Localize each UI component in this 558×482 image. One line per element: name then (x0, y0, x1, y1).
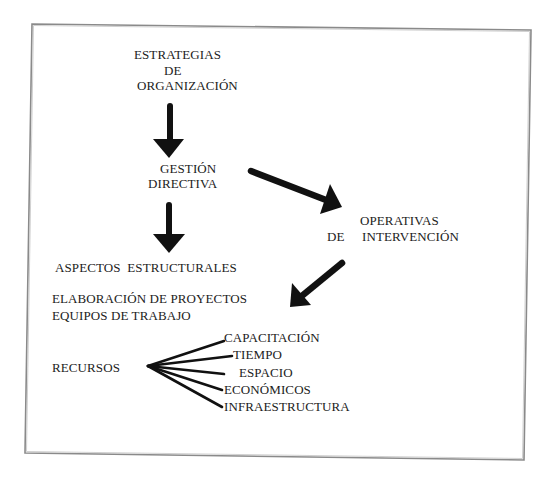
recursos-item-espacio: ESPACIO (239, 366, 293, 380)
node-gestion-line1: GESTIÓN (160, 162, 216, 176)
recursos-fan-lines (148, 341, 232, 407)
arrow-down-right-icon (251, 171, 342, 214)
node-estrategias-line1: ESTRATEGIAS (134, 48, 221, 62)
node-recursos: RECURSOS (52, 361, 120, 375)
arrow-down-icon (153, 106, 184, 158)
node-operativas-line2b: INTERVENCIÓN (362, 230, 459, 244)
node-estrategias-line2: DE (164, 64, 182, 78)
node-elaboracion-de-proyectos: ELABORACIÓN DE PROYECTOS (52, 292, 247, 306)
recursos-item-tiempo: TIEMPO (233, 348, 282, 362)
node-operativas-line1: OPERATIVAS (360, 214, 439, 228)
node-aspectos-estructurales: ASPECTOS ESTRUCTURALES (55, 261, 237, 275)
node-estrategias-line3: ORGANIZACIÓN (137, 79, 238, 93)
recursos-item-capacitacion: CAPACITACIÓN (224, 331, 320, 345)
node-equipos-de-trabajo: EQUIPOS DE TRABAJO (52, 309, 191, 323)
recursos-item-economicos: ECONÓMICOS (224, 383, 311, 397)
arrow-down-icon (153, 205, 185, 253)
node-gestion-line2: DIRECTIVA (148, 177, 217, 191)
arrow-down-left-icon (290, 263, 342, 307)
recursos-item-infraestructura: INFRAESTRUCTURA (224, 400, 350, 414)
node-operativas-line2a: DE (327, 230, 345, 244)
